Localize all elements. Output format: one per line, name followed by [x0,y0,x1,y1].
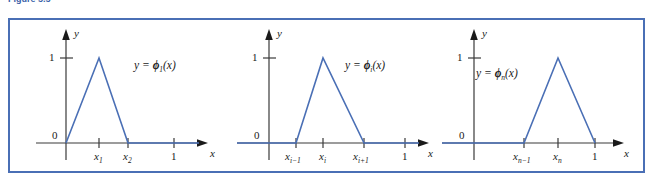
hat-function-curve-1 [66,58,199,143]
x-tick-label-one-1: 1 [171,151,177,162]
y-axis-arrowhead-3 [470,29,478,40]
figure-caption-text: Figure 5.5 [8,0,128,3]
curve-label-phi-n: y = ϕn(x) [476,68,518,82]
y-axis-arrowhead-1 [62,29,70,40]
plot-1-svg [16,20,228,171]
hat-function-curve-2 [237,58,419,143]
x-axis-label-1: x [210,148,215,159]
y-axis-label-2: y [277,28,282,39]
plot-2-svg [223,20,435,171]
y-tick-label-1-3: 1 [457,52,463,63]
x-tick-label-x2: x2 [123,151,132,165]
figure-caption: Figure 5.5 [8,0,128,7]
y-tick-label-0-1: 0 [52,130,58,141]
y-axis-arrowhead-2 [265,29,273,40]
x-axis-arrowhead-3 [613,139,624,147]
x-tick-label-x1: x1 [94,151,103,165]
x-tick-label-xn: xn [553,151,562,165]
y-tick-label-1-2: 1 [252,52,258,63]
x-tick-label-xnm1: xn−1 [513,151,530,165]
x-tick-label-one-2: 1 [402,151,408,162]
curve-label-phi-i: y = ϕi(x) [345,60,385,74]
curve-label-phi-1: y = ϕ1(x) [134,60,176,74]
plot-phi-n: y x 1 0 xn−1 xn 1 y = ϕn(x) [428,20,640,171]
x-tick-label-xim1: xi−1 [285,151,301,165]
figure-frame: y x 1 0 x1 x2 1 y = ϕ1(x) y x 1 [8,18,645,173]
plot-3-svg [428,20,640,171]
y-tick-label-0-3: 0 [459,130,465,141]
y-tick-label-0-2: 0 [254,130,260,141]
x-axis-label-3: x [624,148,629,159]
y-axis-label-3: y [482,28,487,39]
y-axis-label-1: y [74,28,79,39]
plot-phi-1: y x 1 0 x1 x2 1 y = ϕ1(x) [16,20,228,171]
x-tick-label-one-3: 1 [592,151,598,162]
x-tick-label-xip1: xi+1 [353,151,369,165]
y-tick-label-1-1: 1 [49,52,55,63]
x-tick-label-xi: xi [319,151,326,165]
plot-phi-i: y x 1 0 xi−1 xi xi+1 1 y = ϕi(x) [223,20,435,171]
